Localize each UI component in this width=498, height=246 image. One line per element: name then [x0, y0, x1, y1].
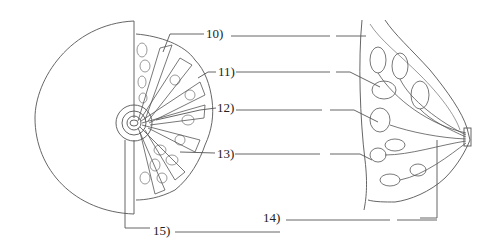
leader-12	[156, 108, 216, 120]
lobes	[138, 45, 205, 194]
leader-13	[180, 152, 215, 153]
skin-outline	[368, 20, 470, 202]
diagram-drawing	[0, 0, 498, 246]
lactiferous-ducts	[378, 73, 466, 180]
leader-11	[198, 72, 216, 78]
lobules	[370, 47, 429, 186]
label-13: 13)	[216, 147, 235, 161]
breast-anatomy-diagram: 10) 11) 12) 13) 14) 15)	[0, 0, 498, 246]
label-12: 12)	[216, 101, 235, 115]
label-15: 15)	[152, 224, 171, 238]
frontal-outline	[35, 21, 134, 214]
label-14: 14)	[262, 211, 281, 225]
leader-14	[420, 140, 437, 218]
nipple	[130, 120, 138, 126]
label-10: 10)	[205, 27, 224, 41]
label-11: 11)	[217, 65, 236, 79]
